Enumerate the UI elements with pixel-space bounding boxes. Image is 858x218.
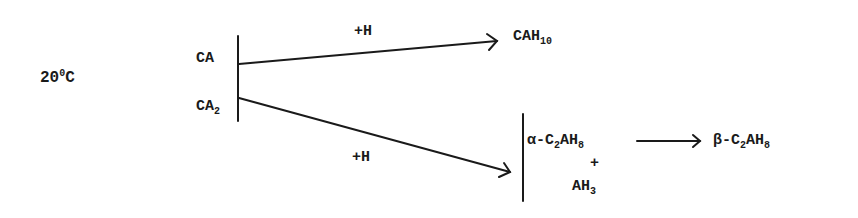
diagram-lines xyxy=(0,0,858,218)
reagent-upper: +H xyxy=(354,24,372,39)
product-beta-c2ah8: β-C2AH8 xyxy=(713,133,770,148)
reagent-lower: +H xyxy=(352,150,370,165)
temperature-label: 200C xyxy=(40,70,75,86)
product-alpha-c2ah8: α-C2AH8 xyxy=(527,133,584,148)
product-cah10: CAH10 xyxy=(513,29,552,44)
product-ah3: AH3 xyxy=(572,179,596,194)
plus-sign: + xyxy=(590,156,599,171)
reaction-diagram: 200C CA CA2 +H CAH10 +H α-C2AH8 + AH3 β-… xyxy=(0,0,858,218)
arrow-upper xyxy=(239,41,497,64)
arrow-lower xyxy=(239,98,510,172)
reactant-ca: CA xyxy=(196,51,214,66)
reactant-ca2: CA2 xyxy=(196,99,220,114)
